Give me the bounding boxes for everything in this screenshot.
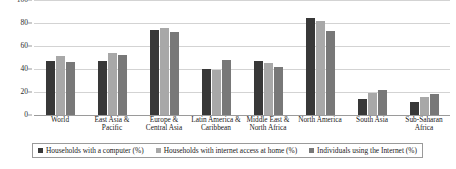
legend-item[interactable]: Households with a computer (%) (38, 146, 144, 155)
x-axis-category-label: Latin America & Caribbean (190, 116, 242, 138)
x-axis-category-label: Sub-Saharan Africa (398, 116, 450, 138)
x-axis-category-label: South Asia (346, 116, 398, 138)
bar-group (138, 0, 190, 115)
legend-swatch-icon (38, 148, 43, 153)
bar-group (190, 0, 242, 115)
bar (254, 61, 263, 115)
legend-item[interactable]: Individuals using the Internet (%) (309, 146, 417, 155)
y-axis-tick-label: 100 (17, 0, 28, 4)
legend-item[interactable]: Households with internet access at home … (156, 146, 297, 155)
y-axis-tick-label: 20 (21, 88, 29, 96)
bar (306, 18, 315, 115)
y-axis: 020406080100 (0, 0, 34, 136)
chart-legend: Households with a computer (%)Households… (32, 143, 423, 158)
x-axis-category-label: North America (294, 116, 346, 138)
bar (150, 30, 159, 115)
bar-group (294, 0, 346, 115)
bar-group (346, 0, 398, 115)
bar (66, 62, 75, 115)
y-axis-tick-mark (28, 46, 32, 47)
x-axis-category-label: Middle East & North Africa (242, 116, 294, 138)
y-axis-tick-label: 40 (21, 65, 29, 73)
bar-group (86, 0, 138, 115)
legend-swatch-icon (156, 148, 161, 153)
bar (98, 61, 107, 115)
x-axis-category-label: World (34, 116, 86, 138)
y-axis-tick-label: 80 (21, 19, 29, 27)
bar (274, 67, 283, 115)
y-axis-tick-mark (28, 23, 32, 24)
bar (170, 32, 179, 115)
bar (160, 28, 169, 115)
y-axis-tick-label: 60 (21, 42, 29, 50)
bar (316, 21, 325, 115)
bar (212, 70, 221, 115)
y-axis-tick-mark (28, 115, 32, 116)
x-axis-category-label: East Asia & Pacific (86, 116, 138, 138)
bar-group (34, 0, 86, 115)
plot-area: 020406080100 WorldEast Asia & PacificEur… (0, 0, 456, 136)
y-axis-tick-mark (28, 69, 32, 70)
legend-swatch-icon (309, 148, 314, 153)
x-axis-category-label: Europe & Central Asia (138, 116, 190, 138)
bar (118, 55, 127, 115)
bar (358, 99, 367, 115)
bar (56, 56, 65, 115)
bar-group (242, 0, 294, 115)
y-axis-tick-mark (28, 92, 32, 93)
y-axis-tick-mark (28, 0, 32, 1)
bar (46, 61, 55, 115)
bar (108, 53, 117, 115)
x-axis-category-labels: WorldEast Asia & PacificEurope & Central… (34, 116, 450, 138)
bar (430, 94, 439, 115)
bar (264, 63, 273, 115)
bar (222, 60, 231, 115)
bar (326, 31, 335, 115)
legend-label: Households with a computer (%) (46, 146, 144, 155)
bar (420, 97, 429, 115)
legend-label: Households with internet access at home … (164, 146, 297, 155)
bar (410, 102, 419, 115)
bar-groups (34, 0, 450, 115)
bar (202, 69, 211, 115)
bar-chart: 020406080100 WorldEast Asia & PacificEur… (0, 0, 456, 169)
bar (378, 90, 387, 115)
bar (368, 93, 377, 115)
bar-group (398, 0, 450, 115)
plot-canvas (34, 0, 450, 115)
legend-label: Individuals using the Internet (%) (317, 146, 417, 155)
